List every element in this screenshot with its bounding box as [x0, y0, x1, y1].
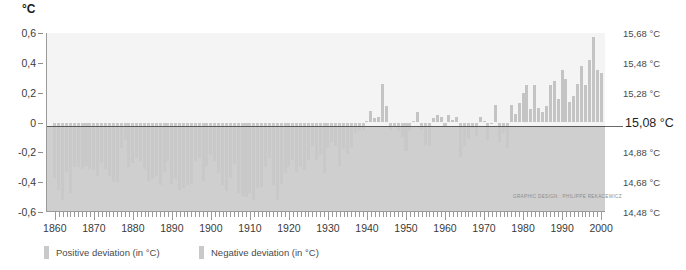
bar-1919 — [284, 123, 287, 174]
bar-1929 — [323, 123, 326, 174]
bar-1979 — [518, 103, 521, 122]
x-tick-1980 — [523, 212, 524, 220]
bar-1876 — [116, 123, 119, 183]
x-tick-1892 — [180, 212, 181, 217]
x-tick-1964 — [461, 212, 462, 217]
x-tick-1908 — [242, 212, 243, 217]
x-axis-labels: 1860187018801890190019101920193019401950… — [0, 222, 686, 236]
bar-1861 — [57, 123, 60, 190]
bar-1940 — [365, 121, 368, 122]
bar-1917 — [276, 123, 279, 201]
x-tick-1918 — [281, 212, 282, 217]
bar-1874 — [108, 123, 111, 177]
bar-1980 — [522, 93, 525, 123]
x-tick-1943 — [379, 212, 380, 217]
bar-1970 — [483, 121, 486, 122]
bar-1982 — [529, 109, 532, 122]
bar-1871 — [96, 123, 99, 177]
x-tick-1877 — [121, 212, 122, 217]
bar-1989 — [557, 99, 560, 123]
x-tick-1885 — [152, 212, 153, 217]
x-axis-label-1990: 1990 — [550, 222, 573, 234]
x-tick-1970 — [484, 212, 485, 220]
x-tick-1939 — [363, 212, 364, 217]
x-tick-1899 — [207, 212, 208, 217]
x-tick-1873 — [106, 212, 107, 217]
x-tick-1983 — [535, 212, 536, 217]
x-tick-1870 — [94, 212, 95, 220]
x-axis-label-1900: 1900 — [199, 222, 222, 234]
x-tick-1888 — [164, 212, 165, 217]
x-tick-1879 — [129, 212, 130, 217]
bar-1964 — [459, 123, 462, 157]
bar-1902 — [217, 123, 220, 174]
x-tick-1917 — [277, 212, 278, 217]
x-tick-1949 — [402, 212, 403, 217]
bar-1872 — [100, 123, 103, 163]
bar-1870 — [92, 123, 95, 171]
x-tick-1959 — [441, 212, 442, 217]
x-tick-1868 — [86, 212, 87, 217]
bar-1866 — [77, 123, 80, 168]
x-axis-label-1930: 1930 — [316, 222, 339, 234]
legend-label-positive: Positive deviation (in °C) — [56, 247, 160, 258]
x-tick-1978 — [515, 212, 516, 217]
legend-swatch-negative-icon — [199, 246, 204, 259]
bar-1927 — [315, 123, 318, 160]
x-tick-1953 — [418, 212, 419, 217]
bar-1863 — [65, 123, 68, 172]
bar-1969 — [479, 117, 482, 123]
x-tick-1928 — [320, 212, 321, 217]
x-tick-1998 — [593, 212, 594, 217]
legend-item-positive: Positive deviation (in °C) — [44, 246, 160, 259]
bar-1868 — [84, 123, 87, 166]
bar-1981 — [525, 85, 528, 122]
x-tick-1987 — [550, 212, 551, 217]
bar-1925 — [307, 123, 310, 160]
bar-1867 — [81, 123, 84, 169]
bar-1941 — [369, 111, 372, 123]
x-tick-1893 — [184, 212, 185, 217]
x-tick-1914 — [266, 212, 267, 217]
y-right-tick-label-0: 15,68 °C — [623, 28, 660, 39]
x-tick-1926 — [312, 212, 313, 217]
bar-1968 — [475, 123, 478, 136]
x-tick-1954 — [422, 212, 423, 217]
bar-1983 — [533, 85, 536, 122]
x-tick-1882 — [141, 212, 142, 217]
bar-1997 — [588, 60, 591, 123]
bar-1924 — [303, 123, 306, 171]
x-tick-1956 — [429, 212, 430, 217]
x-tick-1894 — [187, 212, 188, 217]
bar-1908 — [241, 123, 244, 196]
x-tick-1982 — [531, 212, 532, 217]
x-tick-1986 — [546, 212, 547, 217]
x-tick-1937 — [355, 212, 356, 217]
bar-1909 — [244, 123, 247, 198]
y-left-tick-label-2: 0,2 — [21, 87, 36, 99]
x-tick-1900 — [211, 212, 212, 220]
bar-1985 — [541, 112, 544, 122]
bar-1888 — [163, 123, 166, 172]
bar-1988 — [553, 81, 556, 123]
x-tick-1861 — [59, 212, 60, 217]
x-tick-1999 — [597, 212, 598, 217]
x-tick-1971 — [488, 212, 489, 217]
x-tick-1920 — [289, 212, 290, 220]
x-tick-1977 — [511, 212, 512, 217]
bar-1984 — [537, 108, 540, 123]
x-axis-label-2000: 2000 — [589, 222, 612, 234]
bar-1987 — [549, 85, 552, 122]
bar-1961 — [447, 115, 450, 122]
bar-1943 — [377, 117, 380, 123]
x-tick-1901 — [215, 212, 216, 217]
bar-1875 — [112, 123, 115, 183]
temperature-deviation-chart: °C 0,60,40,20-0,2-0,4-0,6 15,68 °C15,48 … — [0, 0, 686, 270]
legend-item-negative: Negative deviation (in °C) — [199, 246, 319, 259]
bar-1975 — [502, 123, 505, 133]
bar-1973 — [494, 105, 497, 123]
bar-1865 — [73, 123, 76, 168]
bar-1901 — [213, 123, 216, 162]
y-axis-right: 15,68 °C15,48 °C15,28 °C15,08 °C14,88 °C… — [605, 33, 686, 212]
y-left-tick-label-6: -0,6 — [18, 206, 36, 218]
